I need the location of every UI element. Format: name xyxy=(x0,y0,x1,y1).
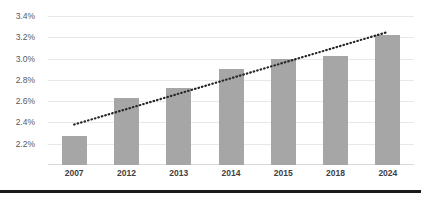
y-axis-tick-label: 2.8% xyxy=(0,75,35,85)
x-axis-tick-label-2012: 2012 xyxy=(100,168,152,178)
x-axis-tick-label-2007: 2007 xyxy=(48,168,100,178)
x-axis-labels: 2007201220132014201520182024 xyxy=(48,168,414,184)
y-axis-tick-label: 2.6% xyxy=(0,96,35,106)
x-axis-tick-label-2014: 2014 xyxy=(205,168,257,178)
bar-2024 xyxy=(375,35,400,165)
footer-divider-gap xyxy=(0,195,421,196)
bar-2014 xyxy=(219,69,244,165)
y-axis-tick-label: 3.4% xyxy=(0,11,35,21)
y-axis-tick-label: 2.2% xyxy=(0,139,35,149)
bar-2018 xyxy=(323,56,348,165)
y-axis-tick-label: 2.4% xyxy=(0,117,35,127)
bar-2013 xyxy=(166,88,191,165)
bar-2015 xyxy=(271,59,296,165)
bar-series xyxy=(48,16,414,165)
y-axis-tick-label: 3.0% xyxy=(0,54,35,64)
y-axis-tick-label: 3.2% xyxy=(0,32,35,42)
x-axis-tick-label-2018: 2018 xyxy=(310,168,362,178)
footer-divider xyxy=(0,190,421,193)
plot-area: 3.4% 3.2% 3.0% 2.8% 2.6% 2.4% 2.2% xyxy=(48,16,414,165)
bar-2007 xyxy=(62,136,87,165)
x-axis-tick-label-2024: 2024 xyxy=(362,168,414,178)
x-axis-tick-label-2013: 2013 xyxy=(153,168,205,178)
bar-2012 xyxy=(114,98,139,165)
x-axis-tick-label-2015: 2015 xyxy=(257,168,309,178)
chart-container: 3.4% 3.2% 3.0% 2.8% 2.6% 2.4% 2.2% xyxy=(0,0,421,203)
